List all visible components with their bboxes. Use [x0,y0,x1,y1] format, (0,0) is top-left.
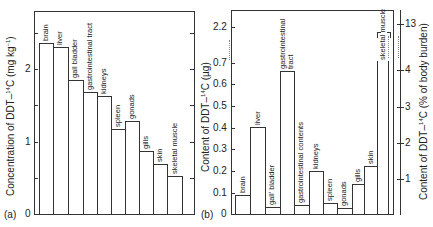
tick [231,214,235,215]
bar-gall-bladder [265,207,281,214]
y-tick-label: 0.1 [213,188,227,198]
axis-break [229,40,230,60]
tick [397,179,404,180]
bar-label: gall bladder [71,39,79,78]
tick [231,84,235,85]
tick [231,193,235,194]
bar-gastrointestinal-tract [280,71,295,214]
bar-gonads [337,208,353,214]
bar-label: kidneys [312,144,320,169]
bar-label: kidneys [100,69,108,94]
bar-gills [139,151,154,214]
y-tick-label: 0 [221,209,227,219]
bar-label: gills [142,136,150,149]
tick [231,128,235,129]
y-tick-label: 0.2 [213,166,227,176]
y-tick-label: 0.6 [213,79,227,89]
bar-label: brain [239,176,247,193]
bar-gonads [125,121,140,214]
tick [190,142,194,143]
right-tick-label: 3 [405,102,411,112]
tick [34,214,38,215]
bar-label: skin [156,149,164,162]
tick [397,143,404,144]
tick [231,149,235,150]
bracket [387,32,391,38]
bar-spleen [111,129,126,214]
tick [190,69,194,70]
tick [34,69,38,70]
right-tick-label: 1 [405,174,411,184]
bar-label: gall' bladder [268,165,276,205]
y-axis-label-left: Content of DDT–14C (µg) [200,62,211,172]
bar-kidneys [309,171,324,214]
bar-label: skeletal muscle [171,123,179,174]
bar-gastrointestinal-tract [83,92,98,214]
bracket [377,32,381,38]
bar-label: spleen [326,179,334,201]
y-tick-label: 2 [25,64,31,74]
tick [231,63,235,64]
bar-label: liver [56,31,64,45]
tick [231,27,235,28]
bar-liver [53,47,69,214]
bar-liver [250,127,266,214]
bar-spleen [323,203,338,214]
bar-skeletal-muscle [167,176,183,214]
bar-label: gonads [340,181,348,206]
bar-label: gastrointestinal contents [297,122,305,203]
tick [34,178,38,179]
y-tick-label: 0.5 [213,101,227,111]
right-tick-label: 4 [405,65,411,75]
tick [190,33,194,34]
bar-brain [39,43,54,214]
tick [34,105,38,106]
axis-break [388,36,389,58]
y-tick-label: 0.7 [213,58,227,68]
tick [190,105,194,106]
bar-gastrointestinal-contents [294,205,310,214]
tick [34,33,38,34]
tick [397,24,404,25]
bar-label: gastrointestinal tract [86,23,94,90]
y-tick-label: 1 [25,137,31,147]
bar-label: tract [287,54,295,69]
bar-label: skin [367,151,375,164]
panel-b-tag: (b) [201,209,213,220]
bar-brain [235,195,251,214]
tick [231,171,235,172]
tick [397,107,404,108]
bar-label: gonads [128,94,136,119]
right-tick-label: 13 [405,19,416,29]
y-tick-label: 2.2 [213,22,227,32]
y-tick-label: 0 [25,209,31,219]
right-axis-line [400,10,401,215]
y-tick-label: 0.4 [213,123,227,133]
bar-skin [364,166,378,214]
bar-label: gills [354,169,362,182]
bar-skeletal-muscle [377,61,389,214]
bar-gall-bladder [68,80,84,214]
bar-label: liver [254,111,262,125]
y-tick-label: 0.3 [213,144,227,154]
bar-label: spleen [114,105,122,127]
panel-a-tag: (a) [4,209,16,220]
tick [397,70,404,71]
tick [231,106,235,107]
tick [190,178,194,179]
tick [34,142,38,143]
right-tick-label: 2 [405,138,411,148]
axis-break [398,36,399,58]
bar-label: brain [42,24,50,41]
bar-kidneys [97,96,112,214]
bar-skin [153,164,168,214]
y-axis-label-right: Content of DDT–14C (% of body burden) [418,23,429,200]
y-axis-label: Concentration of DDT–14C (mg kg−1) [5,36,16,196]
